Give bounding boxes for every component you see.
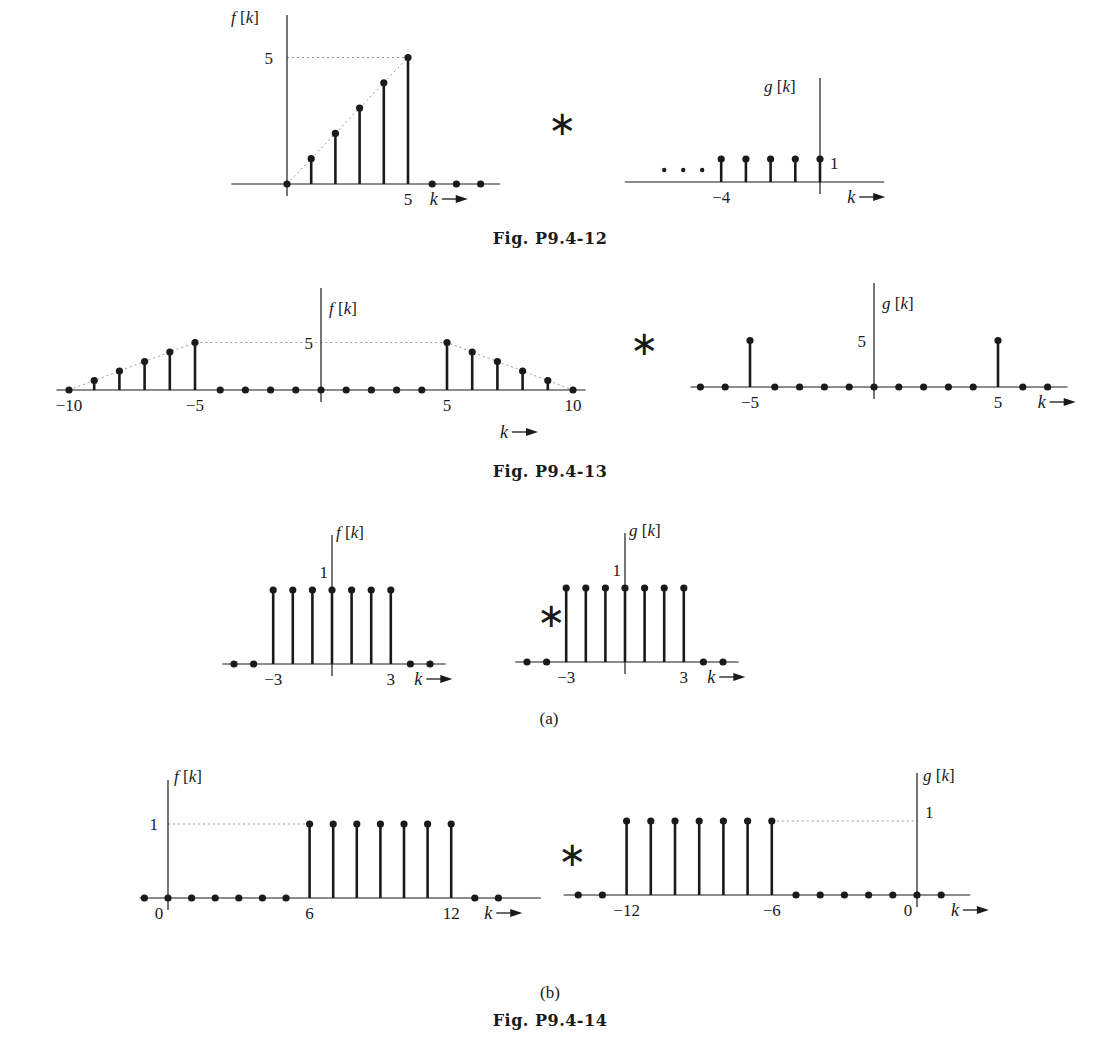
stem-marker [889,891,896,898]
x-tick-label: 0 [904,901,913,920]
stem-marker [744,817,751,824]
stem-marker [696,817,703,824]
figure-caption-p9-4-14: Fig. P9.4-14 [493,1011,608,1030]
p14b_g-group: −12−601g [k]k [564,766,989,920]
stem-marker [938,891,945,898]
stem-marker [913,891,920,898]
stem-marker [647,817,654,824]
stem-marker [841,891,848,898]
stem-marker [671,817,678,824]
stem-marker [575,891,582,898]
x-axis-label: k [951,900,960,920]
y-axis-label: g [k] [923,766,955,785]
stem-marker [792,891,799,898]
x-tick-label: −6 [763,901,781,920]
stem-marker [623,817,630,824]
stem-marker [768,817,775,824]
stem-marker [599,891,606,898]
subfigure-label-b: (b) [540,983,560,1003]
arrow-head-icon [977,906,989,914]
x-tick-label: −12 [613,901,640,920]
stem-marker [865,891,872,898]
stem-marker [720,817,727,824]
plot-p14b-g: −12−601g [k]k [0,0,1099,1048]
stem-marker [817,891,824,898]
y-tick-label: 1 [925,803,934,822]
